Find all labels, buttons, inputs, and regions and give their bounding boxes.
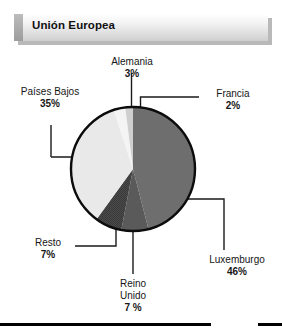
pie-label-reino-unido: Reino Unido 7 %	[108, 278, 158, 314]
pie-label-resto: Resto 7%	[25, 237, 71, 261]
pie-label-alemania-value: 3%	[100, 68, 164, 80]
pie-label-alemania: Alemania 3%	[100, 56, 164, 80]
pie-label-resto-name: Resto	[35, 237, 61, 248]
pie-label-resto-value: 7%	[25, 249, 71, 261]
bottom-rule	[0, 323, 211, 326]
pie-label-paises-bajos: Países Bajos 35%	[14, 86, 86, 110]
pie-chart: Alemania 3% Países Bajos 35% Francia 2% …	[0, 0, 282, 333]
pie-label-luxemburgo: Luxemburgo 46%	[201, 254, 273, 278]
pie-label-francia-value: 2%	[204, 100, 262, 112]
pie-label-luxemburgo-name: Luxemburgo	[209, 254, 265, 265]
pie-label-reino-unido-name-line2: Unido	[120, 290, 146, 301]
pie-label-luxemburgo-value: 46%	[201, 266, 273, 278]
pie-label-reino-unido-value: 7 %	[108, 302, 158, 314]
pie-label-alemania-name: Alemania	[111, 56, 153, 67]
pie-label-paises-bajos-value: 35%	[14, 98, 86, 110]
bottom-rule-tick	[258, 323, 282, 326]
pie-label-francia-name: Francia	[216, 88, 249, 99]
leader-line-resto	[75, 227, 116, 246]
pie-label-reino-unido-name-line1: Reino	[120, 278, 146, 289]
pie-label-paises-bajos-name: Países Bajos	[21, 86, 79, 97]
pie-label-francia: Francia 2%	[204, 88, 262, 112]
